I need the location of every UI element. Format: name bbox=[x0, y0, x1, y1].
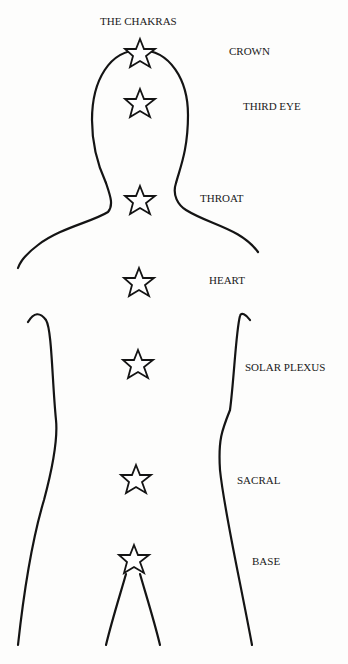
base-star-icon bbox=[119, 545, 149, 573]
label-base: BASE bbox=[252, 555, 280, 567]
left-torso bbox=[18, 314, 56, 645]
left-shoulder bbox=[18, 183, 111, 268]
label-throat: THROAT bbox=[200, 192, 243, 204]
heart-star-icon bbox=[124, 268, 154, 296]
throat-star-icon bbox=[125, 186, 155, 214]
label-solar-plexus: SOLAR PLEXUS bbox=[245, 361, 325, 373]
third-eye-star-icon bbox=[125, 89, 155, 117]
right-inner-leg bbox=[140, 574, 160, 645]
sacral-star-icon bbox=[121, 465, 151, 493]
diagram-title: THE CHAKRAS bbox=[100, 15, 177, 27]
label-heart: HEART bbox=[209, 274, 245, 286]
label-crown: CROWN bbox=[229, 45, 270, 57]
chakra-diagram: THE CHAKRAS CROWN THIRD EYE THROAT HEART… bbox=[0, 0, 348, 664]
label-third-eye: THIRD EYE bbox=[243, 100, 301, 112]
crown-star-icon bbox=[125, 39, 155, 67]
solar-plexus-star-icon bbox=[123, 350, 153, 378]
left-inner-leg bbox=[106, 574, 126, 645]
head-outline bbox=[92, 50, 188, 183]
chakra-stars bbox=[119, 39, 155, 573]
label-sacral: SACRAL bbox=[237, 474, 280, 486]
